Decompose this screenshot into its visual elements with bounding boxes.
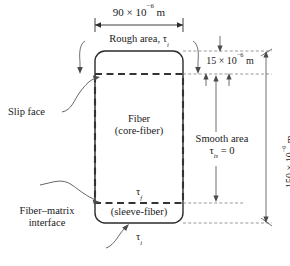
width-dimension-label: 90 × 10−6 m <box>95 6 183 18</box>
width-dimension-line <box>95 18 183 32</box>
fiber-matrix-leader-lower <box>40 181 100 204</box>
fiber-core-line2: (core-fiber) <box>95 125 183 137</box>
smooth-area-label: Smooth area τis = 0 <box>186 133 258 157</box>
smooth-area-line1: Smooth area <box>186 133 258 145</box>
height-dimension-label: 150 × 10−6 m <box>284 135 290 188</box>
fiber-core-line1: Fiber <box>95 113 183 125</box>
figure-canvas: 90 × 10−6 m Rough area, τi Fiber (core-f… <box>0 0 290 266</box>
gap-dimension-label: 15 × 10−6 m <box>190 55 270 66</box>
tau-i-label: τi <box>95 231 183 243</box>
fiber-core-label: Fiber (core-fiber) <box>95 113 183 137</box>
tau-f-label: τf <box>95 186 183 198</box>
sleeve-fiber-label: (sleeve-fiber) <box>95 206 183 218</box>
fiber-matrix-line1: Fiber–matrix <box>2 205 92 217</box>
height-dimension-line <box>261 49 272 226</box>
rough-area-label: Rough area, τi <box>89 33 189 45</box>
fiber-matrix-interface-label: Fiber–matrix interface <box>2 205 92 229</box>
slip-face-label: Slip face <box>8 106 45 118</box>
smooth-area-tau-expression: τis = 0 <box>186 145 258 157</box>
fiber-matrix-line2: interface <box>2 217 92 229</box>
slip-region-dashed-rect <box>95 74 183 203</box>
